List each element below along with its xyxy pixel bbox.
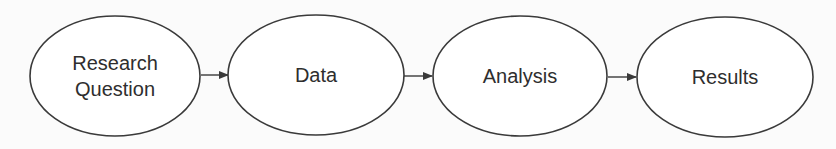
node-label-question: Question bbox=[75, 78, 155, 100]
node-label-data: Data bbox=[295, 64, 338, 86]
node-results: Results bbox=[637, 17, 813, 137]
flowchart-canvas: Research Question Data Analysis Results bbox=[0, 0, 836, 149]
node-data: Data bbox=[228, 15, 404, 135]
node-research-question: Research Question bbox=[30, 16, 200, 136]
node-label-research: Research bbox=[72, 52, 158, 74]
node-analysis: Analysis bbox=[433, 16, 607, 136]
node-label-analysis: Analysis bbox=[483, 65, 557, 87]
node-label-results: Results bbox=[692, 66, 759, 88]
